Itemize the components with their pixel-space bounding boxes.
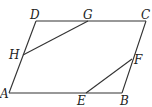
label-H: H bbox=[8, 48, 20, 62]
label-G: G bbox=[83, 8, 93, 22]
segment-GH bbox=[23, 21, 88, 55]
segment-EF bbox=[86, 59, 132, 93]
label-B: B bbox=[119, 94, 129, 107]
label-E: E bbox=[76, 94, 86, 107]
parallelogram-diagram: DGCHFAEB bbox=[0, 0, 152, 107]
label-C: C bbox=[141, 8, 150, 22]
label-D: D bbox=[29, 8, 40, 22]
label-F: F bbox=[133, 53, 143, 67]
segments bbox=[9, 21, 146, 93]
label-A: A bbox=[0, 87, 9, 101]
